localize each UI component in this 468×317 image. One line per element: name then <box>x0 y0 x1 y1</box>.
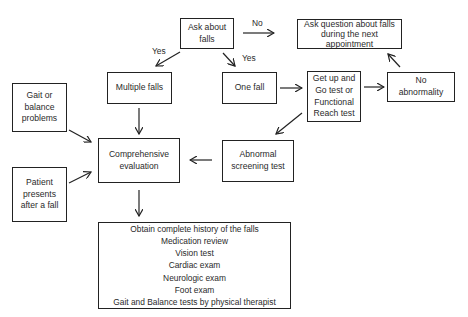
node-ask-about-falls: Ask about falls <box>180 18 234 49</box>
node-abnormal-screening: Abnormal screening test <box>222 140 294 182</box>
edge-label-yes-right: Yes <box>242 53 256 63</box>
arrow-getup-to-abnormal <box>276 113 302 134</box>
node-label: Get up and Go test or Functional Reach t… <box>313 73 356 119</box>
node-label: Abnormal screening test <box>231 149 285 172</box>
node-patient-presents: Patient presents after a fall <box>12 167 67 222</box>
node-evaluation-list: Obtain complete history of the falls Med… <box>98 222 291 309</box>
node-multiple-falls: Multiple falls <box>107 72 172 104</box>
node-label: Multiple falls <box>116 82 163 94</box>
node-label: Ask about falls <box>188 22 226 45</box>
node-ask-next-appointment: Ask question about falls during the next… <box>297 19 402 49</box>
arrow-gait-to-comprehensive <box>69 130 91 142</box>
arrow-patient-to-comprehensive <box>69 172 91 183</box>
node-label: Gait or balance problems <box>22 90 57 125</box>
list-item: Foot exam <box>175 284 215 296</box>
list-item: Obtain complete history of the falls <box>130 223 258 235</box>
node-label: One fall <box>235 82 265 94</box>
node-label: No abnormality <box>399 75 443 98</box>
node-label: Ask question about falls during the next… <box>304 19 395 50</box>
arrow-ask-to-one <box>223 53 235 66</box>
node-get-up-and-go: Get up and Go test or Functional Reach t… <box>307 71 361 122</box>
arrow-noabn-to-next <box>388 54 400 67</box>
list-item: Medication review <box>161 235 228 247</box>
node-label: Patient presents after a fall <box>21 177 59 212</box>
edge-label-no: No <box>252 18 263 28</box>
node-gait-balance: Gait or balance problems <box>12 83 67 132</box>
edge-label-yes-left: Yes <box>152 46 166 56</box>
list-item: Gait and Balance tests by physical thera… <box>113 296 275 308</box>
list-item: Vision test <box>175 247 214 259</box>
list-item: Neurologic exam <box>163 272 226 284</box>
list-item: Cardiac exam <box>169 259 221 271</box>
node-label: Comprehensive evaluation <box>109 149 169 172</box>
node-one-fall: One fall <box>222 72 277 104</box>
node-comprehensive-evaluation: Comprehensive evaluation <box>98 138 180 183</box>
node-no-abnormality: No abnormality <box>387 72 455 102</box>
